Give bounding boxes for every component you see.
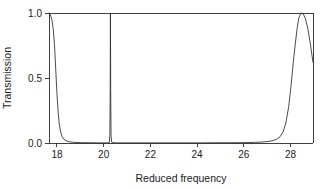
y-axis-title: Transmission xyxy=(1,47,13,109)
x-tick-label: 24 xyxy=(192,149,204,160)
chart-figure: 182022242628 0.00.51.0 Reduced frequency… xyxy=(0,0,328,189)
x-tick-label: 22 xyxy=(145,149,157,160)
transmission-spectrum-plot: 182022242628 0.00.51.0 Reduced frequency… xyxy=(0,0,328,189)
y-tick-label: 1.0 xyxy=(28,8,42,19)
y-tick-label: 0.5 xyxy=(28,73,42,84)
x-tick-label: 18 xyxy=(51,149,63,160)
y-tick-label: 0.0 xyxy=(28,138,42,149)
x-tick-label: 28 xyxy=(285,149,297,160)
x-axis-title: Reduced frequency xyxy=(135,172,227,184)
x-tick-label: 26 xyxy=(238,149,250,160)
x-tick-label: 20 xyxy=(98,149,110,160)
